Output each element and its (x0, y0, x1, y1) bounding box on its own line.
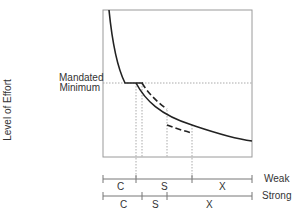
y-axis-label: Level of Effort (2, 79, 13, 141)
strong-scale-name: Strong (262, 191, 291, 201)
mandated-label-line2: Minimum (59, 83, 100, 93)
weak-scale-name: Weak (264, 174, 289, 184)
effort-curve-right (136, 83, 252, 141)
weak-segment-s: S (161, 182, 168, 192)
strong-segment-c: C (120, 200, 127, 210)
weak-segment-c: C (117, 182, 124, 192)
strong-segment-x: X (206, 200, 213, 210)
diagram-canvas (0, 0, 305, 223)
strong-dashed-segment-2 (167, 125, 192, 133)
weak-segment-x: X (219, 182, 226, 192)
effort-curve-left (109, 10, 143, 83)
weak-scale (103, 175, 252, 183)
strong-segment-s: S (152, 200, 159, 210)
